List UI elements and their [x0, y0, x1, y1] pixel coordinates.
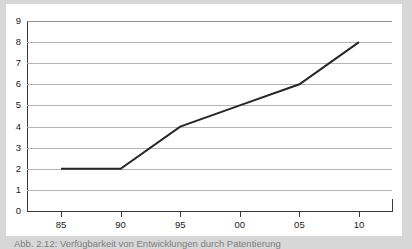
y-tick-label-1: 1 [5, 185, 21, 195]
x-tick-label-85: 85 [46, 220, 76, 230]
figure-caption: Abb. 2.12: Verfügbarkeit von Entwicklung… [14, 238, 406, 249]
figure-container: 0123456789 859095000510 Abb. 2.12: Verfü… [0, 0, 412, 249]
y-tick-label-0: 0 [5, 206, 21, 216]
data-series-line [27, 21, 392, 212]
y-tick-label-2: 2 [5, 164, 21, 174]
x-tick-mark-95 [180, 212, 181, 217]
y-tick-label-4: 4 [5, 122, 21, 132]
x-tick-mark-10 [359, 212, 360, 217]
y-tick-label-8: 8 [5, 37, 21, 47]
x-tick-label-05: 05 [284, 220, 314, 230]
x-tick-label-95: 95 [165, 220, 195, 230]
chart-plot-area: 0123456789 859095000510 [27, 21, 392, 211]
x-tick-mark-05 [299, 212, 300, 217]
y-tick-label-5: 5 [5, 100, 21, 110]
y-tick-label-3: 3 [5, 143, 21, 153]
x-tick-label-00: 00 [225, 220, 255, 230]
x-tick-mark-85 [61, 212, 62, 217]
y-tick-label-7: 7 [5, 58, 21, 68]
x-tick-label-10: 10 [344, 220, 374, 230]
chart-card: 0123456789 859095000510 [6, 4, 402, 236]
y-tick-label-6: 6 [5, 79, 21, 89]
x-tick-mark-00 [240, 212, 241, 217]
x-tick-mark-90 [121, 212, 122, 217]
x-tick-label-90: 90 [106, 220, 136, 230]
y-tick-label-9: 9 [5, 16, 21, 26]
x-axis-right-cap [392, 199, 393, 212]
